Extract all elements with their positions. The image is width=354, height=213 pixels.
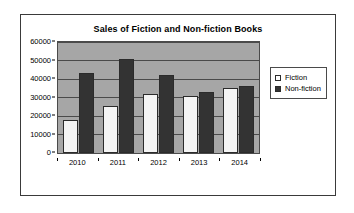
x-tick-mark	[260, 158, 261, 161]
y-tick-mark	[52, 152, 55, 153]
bar-group	[98, 42, 138, 153]
y-tick-mark	[52, 41, 55, 42]
bar	[199, 92, 214, 153]
legend-label: Non-fiction	[285, 84, 321, 93]
legend-item[interactable]: Fiction	[275, 72, 321, 83]
y-tick-label: 30000	[30, 92, 51, 101]
y-tick-mark	[52, 96, 55, 97]
bar	[63, 120, 78, 153]
legend-swatch-icon	[275, 86, 281, 92]
x-tick-mark	[219, 158, 220, 161]
bar	[223, 88, 238, 153]
y-tick-mark	[52, 59, 55, 60]
x-tick-label: 2011	[98, 158, 139, 172]
legend-swatch-icon	[275, 75, 281, 81]
legend-label: Fiction	[285, 73, 307, 82]
bar-group	[58, 42, 98, 153]
y-tick-label: 50000	[30, 55, 51, 64]
y-tick-label: 60000	[30, 37, 51, 46]
bar-group	[219, 42, 259, 153]
bar	[79, 73, 94, 153]
bar-group	[179, 42, 219, 153]
bar	[103, 106, 118, 153]
bar	[119, 59, 134, 153]
bar	[143, 94, 158, 153]
chart-frame: Sales of Fiction and Non-fiction Books 0…	[20, 14, 336, 196]
y-tick-mark	[52, 78, 55, 79]
y-axis: 0100002000030000400005000060000	[21, 41, 55, 154]
y-tick-label: 10000	[30, 129, 51, 138]
chart-legend: FictionNon-fiction	[270, 67, 327, 99]
x-tick-mark	[179, 158, 180, 161]
y-tick-label: 20000	[30, 111, 51, 120]
x-tick-mark	[98, 158, 99, 161]
x-tick-label: 2014	[219, 158, 260, 172]
y-tick-mark	[52, 133, 55, 134]
bar	[159, 75, 174, 153]
x-tick-mark	[138, 158, 139, 161]
x-tick-mark	[57, 158, 58, 161]
x-tick-label: 2010	[57, 158, 98, 172]
y-tick-label: 40000	[30, 74, 51, 83]
x-axis: 20102011201220132014	[57, 158, 260, 172]
bar-group	[138, 42, 178, 153]
bar	[183, 96, 198, 153]
x-tick-label: 2013	[179, 158, 220, 172]
bar	[239, 86, 254, 153]
x-tick-label: 2012	[138, 158, 179, 172]
plot-area	[57, 41, 260, 154]
chart-title: Sales of Fiction and Non-fiction Books	[21, 24, 335, 34]
y-tick-mark	[52, 115, 55, 116]
legend-item[interactable]: Non-fiction	[275, 83, 321, 94]
y-tick-label: 0	[47, 148, 51, 157]
